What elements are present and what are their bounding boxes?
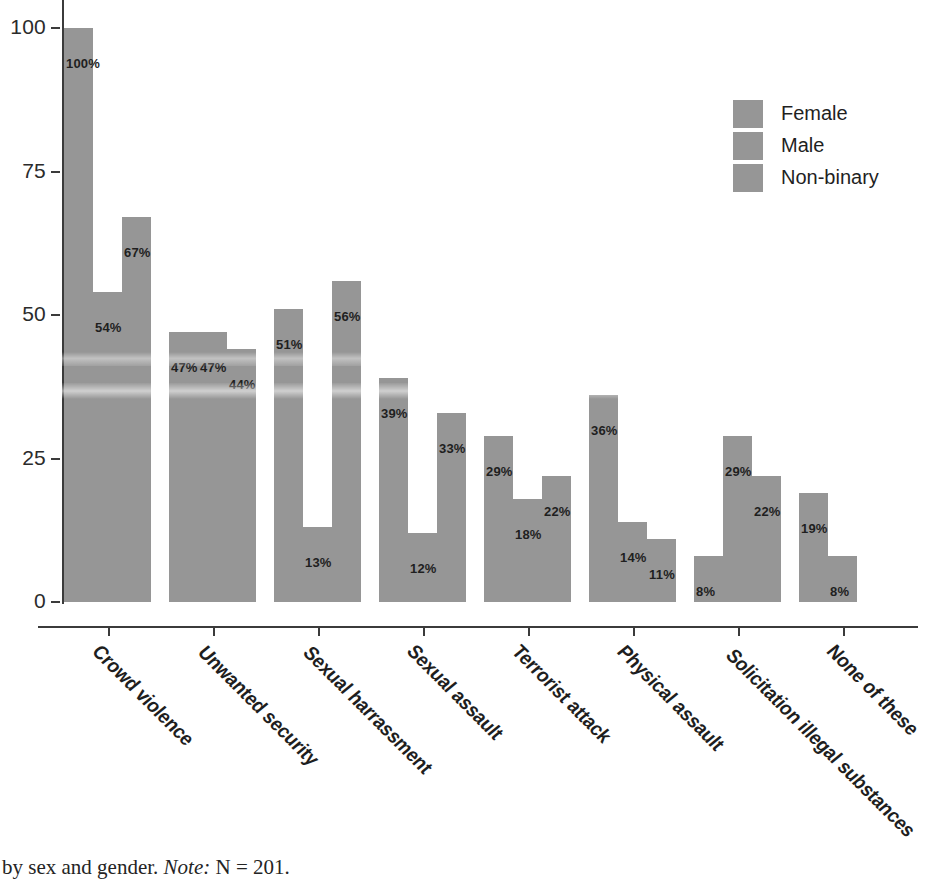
bar: [513, 499, 542, 602]
y-axis-tick-label: 75: [22, 159, 46, 183]
bar: [64, 28, 93, 602]
y-axis-tick-label: 100: [10, 15, 46, 39]
bar-value-label: 56%: [334, 309, 361, 324]
figure-caption: ncerns by sex and gender. Note: N = 201.: [0, 855, 925, 880]
bar-value-label: 29%: [486, 464, 513, 479]
legend-swatch: [733, 100, 763, 128]
bar-value-label: 47%: [171, 360, 198, 375]
y-axis-tick-mark: [51, 27, 60, 29]
legend-swatch: [733, 132, 763, 160]
bar-value-label: 29%: [725, 464, 752, 479]
legend-swatch: [733, 164, 763, 192]
y-axis-tick-label: 50: [22, 302, 46, 326]
y-axis-tick-mark: [51, 314, 60, 316]
x-axis-category-label: Crowd violence: [83, 636, 202, 755]
bar: [723, 436, 752, 602]
legend-label: Male: [781, 134, 824, 157]
x-axis-category-label-text: Solicitation illegal substances: [720, 645, 920, 841]
x-axis-tick-mark: [633, 626, 635, 636]
bar-value-label: 100%: [66, 56, 100, 71]
legend-label: Non-binary: [781, 166, 879, 189]
bar-value-label: 19%: [801, 521, 828, 536]
bar: [542, 476, 571, 602]
x-axis-tick-mark: [738, 626, 740, 636]
bar-value-label: 12%: [410, 561, 437, 576]
bar: [332, 281, 361, 602]
x-axis-category-label-text: Physical assault: [612, 641, 729, 755]
bar-value-label: 14%: [620, 550, 647, 565]
bar-value-label: 44%: [229, 377, 256, 392]
x-axis-tick-mark: [528, 626, 530, 636]
x-axis-category-label: None of these: [818, 636, 925, 744]
bar: [122, 217, 151, 602]
x-axis-category-label: Physical assault: [608, 636, 732, 760]
caption-lead: ncerns by sex and gender.: [0, 855, 158, 879]
y-axis-tick-mark: [51, 601, 60, 603]
bar-value-label: 33%: [439, 441, 466, 456]
y-axis-tick-mark: [51, 458, 60, 460]
bar-value-label: 11%: [649, 567, 675, 582]
bar-value-label: 67%: [124, 245, 151, 260]
y-axis-tick-mark: [51, 171, 60, 173]
bar-value-label: 36%: [591, 423, 618, 438]
bar-value-label: 22%: [544, 504, 571, 519]
x-axis-category-label-text: Sexual assault: [401, 641, 508, 744]
x-axis-tick-mark: [843, 626, 845, 636]
bar-value-label: 39%: [381, 406, 408, 421]
x-axis-category-label-text: None of these: [821, 641, 923, 740]
x-axis-category-label: Solicitation illegal substances: [713, 636, 925, 850]
x-axis-category-label: Terrorist attack: [503, 636, 619, 752]
x-axis-category-label-text: Terrorist attack: [506, 641, 616, 747]
legend-item: Female: [733, 97, 913, 129]
legend-label: Female: [781, 102, 848, 125]
caption-note-text: N = 201.: [210, 855, 290, 879]
x-axis-category-label: Sexual assault: [398, 636, 511, 749]
legend: FemaleMaleNon-binary: [733, 97, 913, 193]
bar: [484, 436, 513, 602]
x-axis-tick-mark: [318, 626, 320, 636]
bar: [799, 493, 828, 602]
x-axis-category-label-text: Crowd violence: [86, 641, 198, 750]
caption-note-label: Note:: [164, 855, 211, 879]
bar-value-label: 13%: [305, 555, 332, 570]
legend-item: Non-binary: [733, 161, 913, 193]
legend-item: Male: [733, 129, 913, 161]
y-axis-tick-label: 25: [22, 446, 46, 470]
bar-value-label: 8%: [696, 584, 715, 599]
bar-value-label: 18%: [515, 527, 542, 542]
x-axis-tick-mark: [108, 626, 110, 636]
x-axis-line: [38, 626, 918, 628]
bar-value-label: 51%: [276, 337, 303, 352]
bar: [752, 476, 781, 602]
x-axis-tick-mark: [423, 626, 425, 636]
bar-value-label: 22%: [754, 504, 781, 519]
bar-value-label: 47%: [200, 360, 227, 375]
plot-area: 100%54%67%47%47%44%51%13%56%39%12%33%29%…: [62, 0, 917, 602]
y-axis-tick-label: 0: [34, 589, 46, 613]
x-axis-tick-mark: [213, 626, 215, 636]
bar-value-label: 54%: [95, 320, 122, 335]
bar: [274, 309, 303, 602]
bar-value-label: 8%: [830, 584, 849, 599]
figure-safety-concerns-by-sex-and-gender: 1007550250 100%54%67%47%47%44%51%13%56%3…: [0, 0, 925, 892]
bar: [93, 292, 122, 602]
